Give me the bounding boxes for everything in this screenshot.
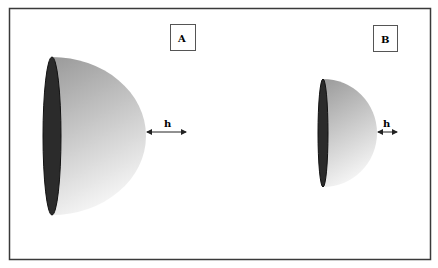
dimension-label-a: h [164, 118, 172, 129]
base-ellipse-a [43, 57, 61, 215]
base-ellipse-b [318, 79, 328, 187]
panel-label-b: B [381, 34, 389, 45]
dimension-label-b: h [383, 118, 391, 129]
diagram-canvas: h A h B [0, 0, 438, 268]
panel-label-a: A [177, 33, 186, 44]
